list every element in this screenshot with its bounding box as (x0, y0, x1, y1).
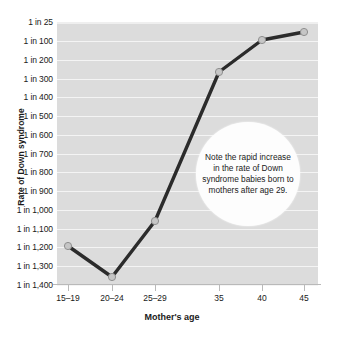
x-axis-tick-label: 35 (214, 293, 223, 303)
x-axis-tick-label: 25–29 (143, 293, 167, 303)
y-axis-tick-label: 1 in 25 (28, 18, 53, 27)
down-syndrome-rate-chart: 1 in 251 in 1001 in 2001 in 3001 in 4001… (0, 0, 344, 346)
y-axis-tick-label: 1 in 200 (24, 56, 53, 65)
x-axis-title: Mother's age (0, 312, 344, 322)
x-axis-tick (68, 284, 69, 291)
x-axis-tick (112, 284, 113, 291)
gridline (57, 266, 318, 267)
annotation-text: Note the rapid increase in the rate of D… (196, 152, 300, 197)
x-axis-tick (155, 284, 156, 291)
y-axis-tick-label: 1 in 1,200 (17, 243, 53, 252)
y-axis-tick-label: 1 in 100 (24, 37, 53, 46)
x-axis-tick-label: 45 (299, 293, 308, 303)
x-axis-tick-label: 15–19 (56, 293, 80, 303)
y-axis-tick-label: 1 in 300 (24, 75, 53, 84)
x-axis-tick (262, 284, 263, 291)
x-axis-tick-label: 40 (257, 293, 266, 303)
x-axis-tick-label: 20–24 (100, 293, 124, 303)
y-axis-tick-label: 1 in 800 (24, 168, 53, 177)
y-axis-tick-label: 1 in 600 (24, 131, 53, 140)
y-axis-tick-label: 1 in 1,400 (17, 281, 53, 290)
gridline (57, 97, 318, 98)
gridline (57, 60, 318, 61)
y-axis-tick-label: 1 in 900 (24, 187, 53, 196)
gridline (57, 116, 318, 117)
y-axis-tick-labels: 1 in 251 in 1001 in 2001 in 3001 in 4001… (0, 22, 53, 284)
gridline (57, 79, 318, 80)
y-axis-tick-label: 1 in 700 (24, 150, 53, 159)
y-axis-title: Rate of Down syndrome (16, 82, 26, 232)
gridline (57, 229, 318, 230)
gridline (57, 41, 318, 42)
x-axis-tick (304, 284, 305, 291)
y-axis-tick-label: 1 in 400 (24, 93, 53, 102)
annotation-callout: Note the rapid increase in the rate of D… (196, 122, 300, 226)
gridline (57, 285, 318, 286)
plot-top-border (57, 22, 318, 24)
gridline (57, 247, 318, 248)
y-axis-tick-label: 1 in 1,300 (17, 262, 53, 271)
x-axis-line (53, 284, 321, 285)
y-axis-tick-label: 1 in 500 (24, 112, 53, 121)
x-axis-tick (219, 284, 220, 291)
